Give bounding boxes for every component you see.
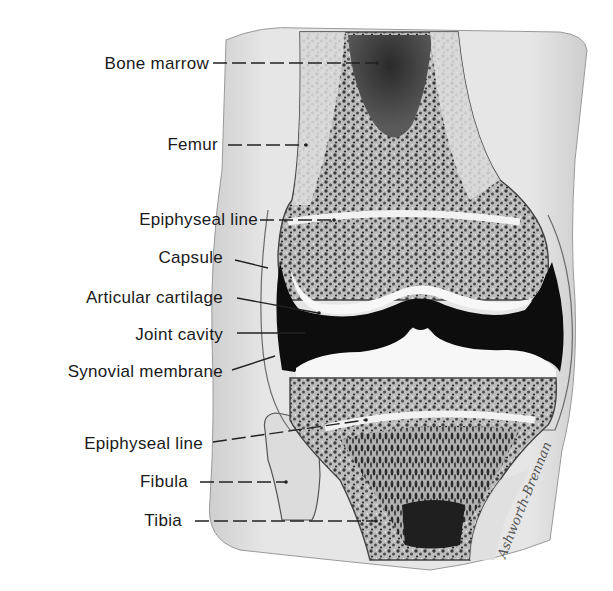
label-capsule: Capsule: [159, 248, 223, 268]
label-synovial-membrane: Synovial membrane: [68, 362, 223, 382]
label-femur: Femur: [167, 135, 218, 155]
label-tibia: Tibia: [144, 511, 182, 531]
label-articular-cartilage: Articular cartilage: [86, 288, 223, 308]
tibia-marrow: [402, 500, 465, 549]
label-epiphyseal-line-lower: Epiphyseal line: [84, 434, 203, 454]
label-bone-marrow: Bone marrow: [105, 54, 209, 74]
label-epiphyseal-line-upper: Epiphyseal line: [139, 210, 258, 230]
label-fibula: Fibula: [140, 472, 188, 492]
label-joint-cavity: Joint cavity: [135, 325, 223, 345]
